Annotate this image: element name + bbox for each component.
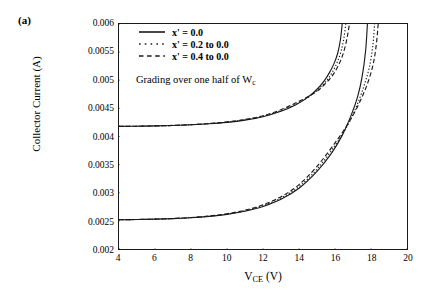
y-tick-label: 0.0055 (58, 46, 114, 56)
legend: x' = 0.0x' = 0.2 to 0.0x' = 0.4 to 0.0 (139, 26, 319, 62)
x-axis-tick-labels: 468101214161820 (118, 253, 408, 267)
y-tick-label: 0.0025 (58, 217, 114, 227)
y-tick-label: 0.0045 (58, 103, 114, 113)
x-tick-label: 10 (207, 253, 247, 263)
y-tick-label: 0.006 (58, 18, 114, 28)
x-tick-label: 6 (134, 253, 174, 263)
x-tick-label: 12 (243, 253, 283, 263)
y-axis-title: Collector Current (A) (30, 29, 42, 179)
legend-line-swatch (139, 27, 165, 37)
legend-label: x' = 0.4 to 0.0 (172, 51, 229, 62)
legend-label: x' = 0.2 to 0.0 (172, 39, 229, 50)
x-axis-title-subscript: CE (252, 275, 263, 284)
legend-item: x' = 0.0 (139, 26, 319, 38)
annotation-grading-note: Grading over one half of Wc (136, 74, 256, 87)
y-tick-label: 0.003 (58, 188, 114, 198)
legend-label: x' = 0.0 (172, 27, 203, 38)
legend-line-swatch (139, 51, 165, 61)
x-tick-label: 18 (352, 253, 392, 263)
x-tick-label: 20 (388, 253, 428, 263)
x-tick-label: 14 (279, 253, 319, 263)
annotation-text-base: Grading over one half of W (136, 74, 252, 85)
x-tick-label: 8 (171, 253, 211, 263)
annotation-text-subscript: c (252, 78, 255, 87)
y-tick-label: 0.004 (58, 132, 114, 142)
x-tick-label: 16 (316, 253, 356, 263)
legend-item: x' = 0.4 to 0.0 (139, 50, 319, 62)
panel-label: (a) (18, 14, 31, 26)
x-tick-label: 4 (98, 253, 138, 263)
figure-panel-a: (a) 0.0020.00250.0030.00350.0040.00450.0… (0, 0, 433, 295)
y-tick-label: 0.0035 (58, 160, 114, 170)
legend-line-swatch (139, 39, 165, 49)
legend-item: x' = 0.2 to 0.0 (139, 38, 319, 50)
y-axis-tick-labels: 0.0020.00250.0030.00350.0040.00450.0050.… (54, 23, 114, 250)
x-axis-title-unit: (V) (263, 270, 282, 282)
y-tick-label: 0.005 (58, 75, 114, 85)
x-axis-title: VCE (V) (118, 270, 408, 284)
